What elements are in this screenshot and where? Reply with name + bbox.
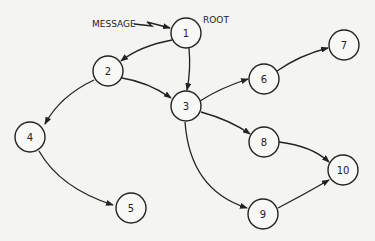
svg-text:6: 6 [261,74,267,85]
edge-3-9 [185,122,247,208]
svg-text:10: 10 [337,165,350,176]
root-label: ROOT [203,15,229,25]
node-7: 7 [329,30,359,60]
node-6: 6 [249,64,279,94]
svg-text:2: 2 [105,66,111,77]
edge-6-7 [277,48,328,71]
node-8: 8 [249,127,279,157]
edge-4-5 [39,151,113,205]
svg-text:9: 9 [260,209,266,220]
edge-9-10 [278,180,329,208]
message-arrow [134,22,170,28]
graph-diagram: MESSAGE ROOT 1 2 3 4 5 6 7 8 9 10 [0,0,375,241]
svg-text:1: 1 [183,28,189,39]
edge-2-3 [122,78,171,98]
svg-text:3: 3 [183,101,189,112]
edge-2-4 [45,80,94,124]
edge-8-10 [279,142,329,162]
edge-1-2 [121,40,172,61]
edge-3-6 [200,79,248,101]
svg-text:5: 5 [128,203,134,214]
node-2: 2 [93,56,123,86]
edge-3-8 [201,112,250,134]
edge-1-3 [187,48,190,90]
node-1: 1 [171,18,201,48]
node-5: 5 [116,193,146,223]
node-4: 4 [15,122,45,152]
svg-text:7: 7 [341,40,347,51]
message-label: MESSAGE [92,19,136,29]
node-9: 9 [248,199,278,229]
node-10: 10 [328,155,358,185]
node-3: 3 [171,91,201,121]
svg-text:4: 4 [27,132,33,143]
svg-text:8: 8 [261,137,267,148]
